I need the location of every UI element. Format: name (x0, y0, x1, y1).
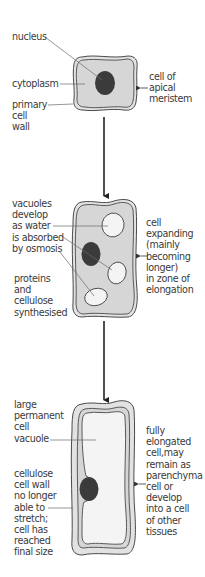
label-nucleus: nucleus (12, 31, 47, 42)
label-vacuoles-develop: vacuoles develop as water is absorbed by… (12, 198, 64, 254)
nucleus (80, 477, 99, 501)
elongation-cell (72, 199, 137, 317)
label-cytoplasm: cytoplasm (12, 78, 58, 89)
label-primary-cell-wall: primary cell wall (12, 99, 47, 133)
label-proteins-cellulose: proteins and cellulose synthesised (14, 273, 67, 318)
apical-meristem-cell (73, 56, 137, 111)
nucleus (82, 242, 101, 266)
label-apical-meristem: cell of apical meristem (149, 71, 192, 105)
label-large-permanent-vacuole: large permanent cell vacuole (14, 399, 64, 444)
cell-growth-diagram: nucleus cytoplasm primary cell wall cell… (0, 0, 205, 577)
nucleus (95, 71, 115, 95)
label-fully-elongated: fully elongated cell,may remain as paren… (146, 425, 202, 537)
fully-elongated-cell (71, 401, 135, 555)
label-cellulose-cell-wall: cellulose cell wall no longer able to st… (14, 468, 56, 558)
label-zone-of-elongation: cell expanding (mainly becoming longer) … (146, 217, 193, 295)
